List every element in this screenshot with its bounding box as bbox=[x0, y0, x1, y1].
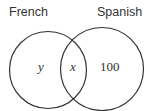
region-spanish-only: 100 bbox=[100, 59, 120, 74]
region-french-only: y bbox=[36, 59, 44, 74]
venn-diagram: y x 100 bbox=[0, 0, 150, 111]
region-both: x bbox=[69, 59, 76, 74]
